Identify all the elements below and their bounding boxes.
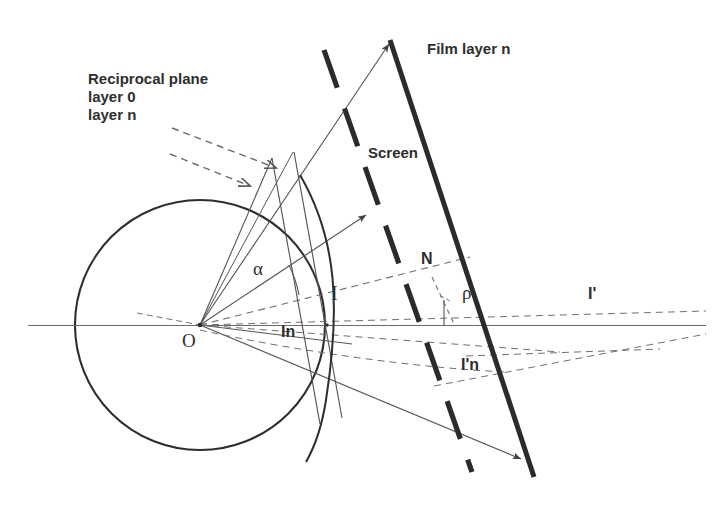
- reciprocal-plane-caption: Reciprocal plane: [88, 70, 208, 88]
- ray-upper-steep: [200, 152, 293, 325]
- dashed-ray-to-iprime: [200, 311, 706, 325]
- incident-beam-arrow-upper: [172, 128, 276, 168]
- rho-angle-arc: [440, 296, 452, 303]
- intersection-in-label: In: [281, 323, 295, 342]
- origin-o-label: O: [182, 330, 196, 352]
- reflection-arc-through-i: [300, 175, 334, 462]
- rho-angle-label: ρ: [462, 282, 471, 304]
- point-i-marker: [325, 323, 328, 326]
- diagram-canvas: Reciprocal plane layer 0 layer n Film la…: [0, 0, 720, 505]
- screen-caption: Screen: [368, 144, 418, 162]
- layer-n-caption: layer n: [88, 106, 136, 124]
- alpha-angle-label: α: [253, 258, 263, 280]
- normal-n-label: N: [421, 250, 433, 269]
- ray-diffracted-lower: [200, 325, 521, 459]
- film-layer-n-caption: Film layer n: [427, 40, 510, 58]
- origin-marker: [198, 323, 203, 328]
- layer-0-caption: layer 0: [88, 88, 136, 106]
- incident-beam-arrow-lower: [170, 154, 250, 186]
- intersection-i-prime-n-label: I'n: [461, 356, 479, 375]
- screen-line: [324, 50, 472, 472]
- film-layer-line: [390, 40, 534, 477]
- intersection-i-prime-label: I': [588, 285, 596, 304]
- ray-to-layer0-top: [200, 158, 272, 325]
- intersection-i-label: I: [331, 282, 338, 306]
- dashed-stub-left: [137, 313, 200, 325]
